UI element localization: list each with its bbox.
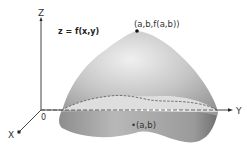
equation-label: z = f(x,y): [58, 27, 99, 36]
base-point-label: •(a,b): [131, 120, 156, 130]
max-point-label: (a,b,f(a,b)): [134, 19, 180, 29]
x-axis-arrow-icon: [18, 131, 21, 134]
x-axis-label: X: [8, 130, 14, 140]
surface-diagram: Z X 0 Y (a,b,f(a,b)) z = f(x,y) •(a,b): [0, 0, 247, 159]
max-point-marker: [135, 29, 139, 33]
y-axis-label: Y: [235, 106, 242, 116]
origin-label: 0: [41, 113, 46, 122]
y-axis-arrow-icon: [228, 108, 233, 111]
x-axis: [19, 110, 41, 132]
z-axis-label: Z: [38, 8, 44, 18]
